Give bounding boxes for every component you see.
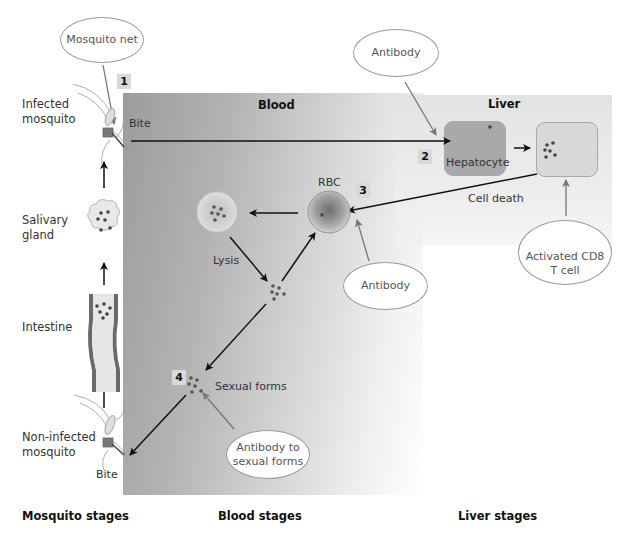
intestine-label: Intestine	[22, 320, 72, 335]
bite-top-label: Bite	[129, 116, 151, 131]
step-badge-3: 3	[356, 183, 370, 198]
blood-stages-label: Blood stages	[218, 509, 302, 524]
mosquito-net-intervention: Mosquito net	[60, 17, 144, 63]
antibody-rbc-intervention: Antibody	[343, 262, 428, 310]
salivary-gland-graphic	[88, 200, 120, 231]
antibody-sexual-line1: Antibody to	[233, 441, 303, 455]
cd8-label-line1: Activated CD8	[526, 250, 605, 264]
mosquito-stages-label: Mosquito stages	[22, 509, 129, 524]
antibody-rbc-arrow	[357, 220, 369, 261]
cell-death-label: Cell death	[468, 191, 524, 206]
to-mosquito-arrow	[130, 395, 186, 455]
bite-bottom-label: Bite	[96, 467, 118, 482]
sexual-forms-dots	[187, 376, 203, 394]
rbc-cell	[308, 191, 350, 233]
step-badge-1: 1	[117, 74, 131, 89]
reinvasion-arrow	[282, 233, 315, 281]
cd8-label-line2: T cell	[526, 264, 605, 278]
rbc-label: RBC	[318, 175, 341, 190]
antibody-liver-intervention: Antibody	[353, 29, 439, 77]
to-sexual-forms-arrow	[206, 304, 266, 370]
antibody-sexual-line2: sexual forms	[233, 455, 303, 469]
antibody-sexual-intervention: Antibody to sexual forms	[226, 430, 310, 479]
step-badge-2: 2	[418, 149, 432, 164]
antibody-liver-arrow	[405, 82, 436, 135]
mosquito-net-label: Mosquito net	[66, 33, 138, 47]
sexual-forms-label: Sexual forms	[215, 379, 287, 394]
liver-merozoites	[543, 141, 557, 159]
non-infected-mosquito-label: Non-infected mosquito	[22, 430, 102, 460]
salivary-gland-label: Salivary gland	[22, 213, 82, 243]
antibody-liver-label: Antibody	[371, 46, 420, 60]
free-merozoites	[270, 284, 286, 301]
antibody-rbc-label: Antibody	[361, 279, 410, 293]
cd8-t-cell-intervention: Activated CD8 T cell	[518, 220, 612, 285]
lysis-label: Lysis	[213, 253, 239, 268]
schizont-cell	[197, 192, 237, 232]
step-badge-4: 4	[172, 370, 186, 385]
antibody-sexual-arrow	[203, 393, 234, 429]
infected-mosquito-label: Infected mosquito	[22, 97, 92, 127]
liver-stages-label: Liver stages	[458, 509, 537, 524]
